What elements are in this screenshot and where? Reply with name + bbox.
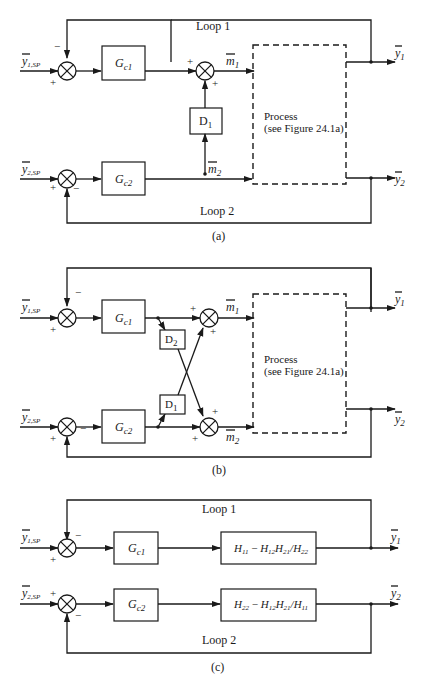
sign-plus: + bbox=[212, 77, 218, 89]
sign-plus: + bbox=[187, 55, 193, 67]
sign-plus: + bbox=[50, 181, 56, 193]
sign-minus: − bbox=[80, 422, 86, 434]
sign-minus: − bbox=[54, 40, 60, 52]
output2-label: y2 bbox=[394, 412, 405, 428]
input1-label: y1,SP bbox=[21, 300, 41, 315]
sign-plus: + bbox=[212, 405, 218, 417]
m2-label: m2 bbox=[208, 162, 222, 178]
panel-b: (b) y1,SP y2,SP Gc1 Gc2 D2 D1 m1 m2 Proc… bbox=[20, 268, 405, 477]
sign-plus: + bbox=[50, 587, 56, 599]
sign-plus: + bbox=[210, 325, 216, 337]
process-ref-label: (see Figure 24.1a) bbox=[264, 122, 344, 135]
summing-junction-2 bbox=[58, 595, 76, 613]
d1-input-line bbox=[158, 414, 165, 427]
process-label: Process bbox=[264, 110, 298, 122]
branch-point bbox=[369, 546, 373, 550]
sign-plus: + bbox=[50, 323, 56, 335]
input2-label: y2,SP bbox=[21, 410, 41, 425]
loop2-label: Loop 2 bbox=[202, 633, 236, 647]
panel-c: Loop 1 Loop 2 (c) y1,SP y2,SP Gc1 Gc2 H1… bbox=[20, 500, 401, 674]
loop2-label: Loop 2 bbox=[200, 204, 234, 218]
input1-label: y1,SP bbox=[21, 54, 41, 69]
decoupling-control-diagrams: Loop 1 Loop 2 (a) y1,SP y2,SP Gc1 Gc2 D1… bbox=[0, 0, 423, 687]
loop1-label: Loop 1 bbox=[202, 502, 236, 516]
sign-minus: − bbox=[73, 182, 79, 194]
summing-junction-m2 bbox=[200, 418, 218, 436]
process-label: Process bbox=[264, 353, 298, 365]
sign-plus: + bbox=[50, 553, 56, 565]
d2-input-line bbox=[158, 318, 165, 330]
m2-label: m2 bbox=[226, 430, 240, 446]
sign-plus: + bbox=[192, 432, 198, 444]
sign-plus: + bbox=[50, 76, 56, 88]
sign-minus: − bbox=[75, 286, 81, 298]
output1-label: y1 bbox=[394, 292, 405, 308]
panel-a: Loop 1 Loop 2 (a) y1,SP y2,SP Gc1 Gc2 D1… bbox=[20, 19, 405, 243]
sign-plus: + bbox=[190, 302, 196, 314]
m1-label: m1 bbox=[226, 54, 239, 70]
output1-label: y1 bbox=[390, 530, 401, 546]
summing-junction-2 bbox=[58, 418, 76, 436]
input1-label: y1,SP bbox=[21, 530, 41, 545]
summing-junction-1 bbox=[58, 539, 76, 557]
summing-junction-1 bbox=[58, 309, 76, 327]
sign-minus: − bbox=[75, 529, 81, 541]
process-ref-label: (see Figure 24.1a) bbox=[264, 365, 344, 378]
summing-junction-1 bbox=[58, 62, 76, 80]
output1-label: y1 bbox=[394, 46, 405, 62]
panel-a-caption: (a) bbox=[212, 229, 225, 243]
loop1-label: Loop 1 bbox=[196, 19, 230, 33]
sign-minus: − bbox=[75, 609, 81, 621]
output2-label: y2 bbox=[394, 172, 405, 188]
m1-label: m1 bbox=[226, 300, 239, 316]
sign-plus: + bbox=[50, 432, 56, 444]
panel-c-caption: (c) bbox=[211, 660, 224, 674]
input2-label: y2,SP bbox=[21, 586, 41, 601]
branch-point bbox=[203, 172, 207, 176]
panel-b-caption: (b) bbox=[212, 463, 226, 477]
output2-label: y2 bbox=[390, 586, 401, 602]
input2-label: y2,SP bbox=[21, 162, 41, 177]
